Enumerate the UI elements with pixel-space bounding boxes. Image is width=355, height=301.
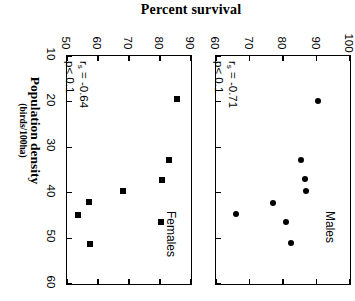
figure-root: Percent survival Population density (bir… (0, 0, 355, 301)
annotation-r-value: rs = -0.64 (76, 61, 90, 108)
survival-tick (159, 56, 160, 61)
correlation-annotation-males: rs = -0.71p< 0.1 (212, 61, 239, 108)
density-tick (216, 147, 221, 148)
data-point-males (302, 176, 308, 182)
data-point-females (75, 212, 81, 218)
density-tick (67, 192, 72, 193)
density-tick-label: 60 (45, 271, 57, 293)
correlation-annotation-females: rs = -0.64p< 0.1 (63, 61, 90, 108)
data-point-females (159, 177, 165, 183)
survival-tick-mirror (128, 279, 129, 284)
density-tick-label: 40 (45, 180, 57, 202)
density-tick (216, 283, 221, 284)
annotation-p-value: p< 0.1 (212, 61, 225, 108)
density-tick-label: 50 (45, 225, 57, 247)
data-point-males (288, 240, 294, 246)
panel-label-males: Males (323, 211, 337, 243)
density-tick (216, 55, 221, 56)
y-axis-units: (birds/100ha) (18, 31, 28, 231)
survival-tick-mirror (249, 279, 250, 284)
survival-tick (97, 56, 98, 61)
survival-tick-mirror (215, 279, 216, 284)
data-point-males (298, 157, 304, 163)
data-point-males (315, 98, 321, 104)
survival-tick (316, 56, 317, 61)
data-point-males (233, 211, 239, 217)
figure-title: Percent survival (96, 2, 286, 18)
survival-tick-label: 70 (122, 32, 134, 54)
survival-tick-mirror (66, 279, 67, 284)
survival-tick (282, 56, 283, 61)
annotation-r-value: rs = -0.71 (225, 61, 239, 108)
annotation-p-value: p< 0.1 (63, 61, 76, 108)
data-point-females (166, 157, 172, 163)
data-point-females (87, 241, 93, 247)
density-tick (67, 283, 72, 284)
survival-tick (128, 56, 129, 61)
y-axis-label: Population density (birds/100ha) (18, 31, 43, 231)
data-point-males (283, 219, 289, 225)
density-tick-label: 30 (45, 134, 57, 156)
survival-tick-mirror (97, 279, 98, 284)
data-point-males (270, 200, 276, 206)
density-tick-label: 10 (45, 43, 57, 65)
survival-tick-mirror (159, 279, 160, 284)
data-point-males (303, 188, 309, 194)
survival-tick-label: 60 (209, 32, 221, 54)
survival-tick-mirror (316, 279, 317, 284)
survival-tick-label: 60 (91, 32, 103, 54)
density-tick (216, 238, 221, 239)
data-point-females (174, 96, 180, 102)
density-tick (67, 238, 72, 239)
density-tick (67, 55, 72, 56)
survival-tick-mirror (349, 279, 350, 284)
panel-label-females: Females (164, 211, 178, 257)
density-tick (67, 147, 72, 148)
survival-tick-label: 50 (60, 32, 72, 54)
survival-tick-label: 80 (276, 32, 288, 54)
survival-tick-mirror (282, 279, 283, 284)
survival-tick (190, 56, 191, 61)
density-tick-label: 20 (45, 89, 57, 111)
data-point-females (86, 199, 92, 205)
survival-tick (249, 56, 250, 61)
data-point-females (120, 188, 126, 194)
y-axis-label-text: Population density (28, 77, 43, 185)
survival-tick (349, 56, 350, 61)
survival-tick-label: 90 (184, 32, 196, 54)
survival-tick-label: 90 (310, 32, 322, 54)
survival-tick-label: 100 (343, 32, 355, 54)
density-tick (216, 192, 221, 193)
survival-tick-mirror (190, 279, 191, 284)
survival-tick-label: 70 (243, 32, 255, 54)
survival-tick-label: 80 (153, 32, 165, 54)
